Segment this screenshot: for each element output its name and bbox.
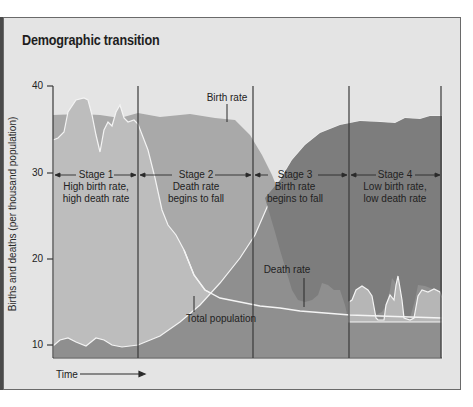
y-tick-40: 40 (32, 80, 44, 91)
stage2-line1: Death rate (173, 181, 220, 192)
stage1-name: Stage 1 (79, 169, 114, 180)
y-tick-30: 30 (32, 167, 44, 178)
stage1-line1: High birth rate, (63, 181, 129, 192)
y-tick-10: 10 (32, 339, 44, 350)
birth-rate-label: Birth rate (207, 92, 248, 103)
stage3-line2: begins to fall (267, 193, 323, 204)
stage2-name: Stage 2 (179, 169, 214, 180)
stage4-line2: low death rate (364, 193, 427, 204)
stage3-name: Stage 3 (278, 169, 313, 180)
death-rate-label: Death rate (264, 264, 311, 275)
y-tick-20: 20 (32, 253, 44, 264)
stage3-line1: Birth rate (275, 181, 316, 192)
x-axis-label: Time (56, 369, 78, 380)
total-population-label: Total population (186, 313, 256, 324)
stage4-line1: Low birth rate, (363, 181, 426, 192)
stage4-name: Stage 4 (378, 169, 413, 180)
stage1-line2: high death rate (63, 193, 130, 204)
time-arrow (80, 372, 145, 377)
chart-canvas: 40 30 20 10 Stage 1 High birth rate, hig… (0, 0, 473, 407)
stage2-line2: begins to fall (168, 193, 224, 204)
